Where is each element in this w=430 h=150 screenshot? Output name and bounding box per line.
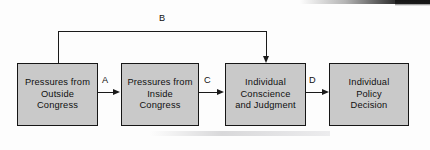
edge-b-vertical-left — [58, 31, 59, 64]
edge-label-d: D — [309, 75, 316, 85]
edge-b-arrowhead — [263, 56, 269, 63]
edge-label-a: A — [102, 75, 108, 85]
node-label-pressures-inside-congress: Pressures from Inside Congress — [127, 77, 192, 111]
edge-c-arrowhead — [217, 89, 224, 95]
node-label-individual-conscience-and-judgment: Individual Conscience and Judgment — [235, 77, 296, 111]
scan-artifact-bottom — [150, 131, 330, 136]
edge-a-line — [98, 92, 114, 93]
edge-d-line — [306, 92, 323, 93]
edge-b-horizontal — [58, 31, 266, 32]
node-individual-policy-decision[interactable]: Individual Policy Decision — [329, 63, 409, 126]
edge-a-arrowhead — [113, 89, 120, 95]
edge-b-vertical-right — [266, 31, 267, 57]
edge-d-arrowhead — [322, 89, 329, 95]
node-individual-conscience-and-judgment[interactable]: Individual Conscience and Judgment — [225, 63, 306, 126]
scan-artifact-top-right — [395, 0, 430, 6]
node-pressures-outside-congress[interactable]: Pressures from Outside Congress — [17, 63, 98, 126]
edge-label-c: C — [204, 75, 211, 85]
node-label-pressures-outside-congress: Pressures from Outside Congress — [25, 77, 90, 111]
node-pressures-inside-congress[interactable]: Pressures from Inside Congress — [121, 63, 199, 126]
node-label-individual-policy-decision: Individual Policy Decision — [349, 77, 390, 111]
edge-label-b: B — [159, 13, 165, 23]
diagram-canvas: B Pressures from Outside Congress A Pres… — [0, 0, 430, 150]
edge-c-line — [199, 92, 218, 93]
